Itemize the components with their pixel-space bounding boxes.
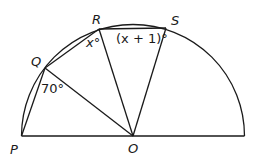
angle-label-x: x° xyxy=(85,35,100,50)
radius-OQ xyxy=(45,68,133,136)
angle-label-70: 70° xyxy=(41,81,64,96)
label-P: P xyxy=(10,142,18,157)
angle-label-x-plus-1: (x + 1)° xyxy=(116,31,168,46)
label-Q: Q xyxy=(31,54,41,69)
chord-RS xyxy=(99,28,166,29)
geometry-diagram: P Q R S O 70° x° (x + 1)° xyxy=(0,0,258,159)
label-R: R xyxy=(92,12,101,27)
chord-PQ xyxy=(22,68,46,136)
label-S: S xyxy=(171,13,179,28)
label-O: O xyxy=(128,141,138,156)
